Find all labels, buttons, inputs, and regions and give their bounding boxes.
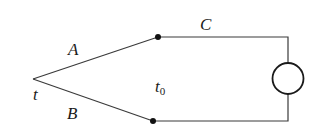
conductor-a [33, 37, 158, 79]
meter-icon [273, 63, 304, 94]
conductor-c-top [158, 37, 288, 63]
label-a: A [67, 40, 79, 59]
label-t0: t0 [155, 77, 166, 97]
conductor-c-bottom [153, 94, 288, 121]
label-t0-subscript: 0 [160, 85, 166, 97]
upper-junction-dot [155, 34, 161, 40]
thermocouple-diagram: A C t B t0 [0, 0, 323, 133]
label-c: C [200, 15, 212, 34]
label-t: t [33, 85, 39, 104]
conductor-b [33, 79, 153, 121]
label-b: B [67, 104, 78, 123]
lower-junction-dot [150, 118, 156, 124]
